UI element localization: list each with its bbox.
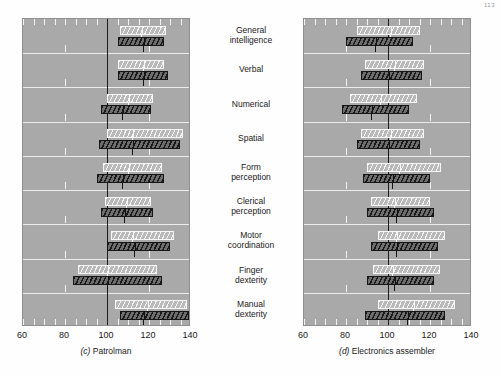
- median-seam: [125, 208, 126, 217]
- median-seam: [108, 265, 109, 274]
- axis-tick: [65, 319, 66, 326]
- range-bar-light: [378, 300, 456, 309]
- axis-tick: [399, 319, 400, 325]
- median-seam: [108, 276, 109, 285]
- panel-caption-c: (c) Patrolman: [22, 346, 190, 356]
- median-marker-dark: [124, 216, 125, 223]
- median-seam: [129, 163, 130, 172]
- axis-tick: [346, 79, 347, 86]
- gridline: [304, 122, 470, 123]
- panel-caption-d: (d) Electronics assembler: [303, 346, 471, 356]
- axis-tick: [23, 19, 24, 25]
- axis-tick: [65, 148, 66, 155]
- median-seam: [393, 174, 394, 183]
- axis-tick: [430, 148, 431, 155]
- gridline: [304, 224, 470, 225]
- category-label-line: intelligence: [196, 35, 306, 45]
- figure-root: 113 6080100120140 (c) Patrolman Generali…: [0, 0, 501, 376]
- axis-tick: [409, 19, 410, 25]
- range-bar-light: [105, 197, 151, 206]
- median-seam: [142, 26, 143, 35]
- median-seam: [144, 60, 145, 69]
- range-bar-dark: [97, 174, 164, 183]
- axis-tick: [430, 216, 431, 223]
- axis-tick: [430, 19, 431, 25]
- x-tick-label: 120: [140, 330, 155, 340]
- median-marker-dark: [143, 45, 144, 52]
- gridline: [23, 190, 189, 191]
- panel-caption-c-prefix: (c): [80, 346, 90, 356]
- x-tick-label: 80: [340, 330, 350, 340]
- range-bar-dark: [99, 140, 181, 149]
- median-seam: [395, 276, 396, 285]
- median-marker-dark: [122, 113, 123, 120]
- axis-tick: [409, 319, 410, 325]
- median-seam: [395, 60, 396, 69]
- plot-area-c: [22, 18, 190, 326]
- axis-tick: [420, 319, 421, 325]
- category-label: Motorcoordination: [196, 230, 306, 250]
- axis-tick: [462, 319, 463, 325]
- range-bar-dark: [73, 276, 161, 285]
- x-tick-label: 60: [298, 330, 308, 340]
- axis-tick: [357, 19, 358, 25]
- x-tick-label: 120: [421, 330, 436, 340]
- median-marker-dark: [388, 148, 389, 155]
- gridline: [304, 190, 470, 191]
- category-label-line: coordination: [196, 240, 306, 250]
- panel-caption-d-text: Electronics assembler: [352, 346, 435, 356]
- panel-d: 6080100120140 (d) Electronics assembler: [303, 18, 471, 356]
- axis-tick: [65, 285, 66, 292]
- axis-tick: [181, 19, 182, 25]
- axis-tick: [367, 319, 368, 325]
- axis-tick: [160, 19, 161, 25]
- median-seam: [133, 140, 134, 149]
- axis-tick: [181, 319, 182, 325]
- median-marker-dark: [375, 45, 376, 52]
- median-seam: [391, 26, 392, 35]
- range-bar-light: [78, 265, 158, 274]
- category-label-line: Verbal: [196, 64, 306, 74]
- gridline: [304, 156, 470, 157]
- axis-tick: [118, 319, 119, 325]
- range-bar-dark: [101, 105, 151, 114]
- median-marker-dark: [143, 79, 144, 86]
- category-label: Numerical: [196, 99, 306, 109]
- axis-tick: [149, 216, 150, 223]
- median-marker-dark: [394, 284, 395, 291]
- axis-tick: [325, 319, 326, 325]
- range-bar-light: [115, 300, 186, 309]
- axis-tick: [34, 319, 35, 325]
- axis-tick: [23, 319, 24, 325]
- category-label: Generalintelligence: [196, 25, 306, 45]
- category-label: Verbal: [196, 64, 306, 74]
- median-seam: [123, 174, 124, 183]
- axis-tick: [139, 19, 140, 25]
- axis-tick: [462, 19, 463, 25]
- median-seam: [372, 105, 373, 114]
- range-bar-light: [357, 26, 420, 35]
- median-marker-dark: [134, 250, 135, 257]
- axis-tick: [357, 319, 358, 325]
- axis-tick: [346, 216, 347, 223]
- axis-tick: [86, 319, 87, 325]
- range-bar-light: [378, 231, 445, 240]
- median-seam: [393, 265, 394, 274]
- axis-tick: [346, 285, 347, 292]
- median-seam: [397, 242, 398, 251]
- axis-tick: [128, 19, 129, 25]
- axis-tick: [65, 79, 66, 86]
- gridline: [23, 156, 189, 157]
- median-marker-dark: [388, 79, 389, 86]
- gridline: [23, 259, 189, 260]
- axis-tick: [118, 19, 119, 25]
- axis-tick: [97, 19, 98, 25]
- x-tick-label: 60: [17, 330, 27, 340]
- median-seam: [397, 231, 398, 240]
- axis-tick: [149, 148, 150, 155]
- axis-tick: [315, 19, 316, 25]
- range-bar-dark: [363, 174, 430, 183]
- range-bar-dark: [342, 105, 409, 114]
- axis-tick: [315, 319, 316, 325]
- axis-tick: [65, 182, 66, 189]
